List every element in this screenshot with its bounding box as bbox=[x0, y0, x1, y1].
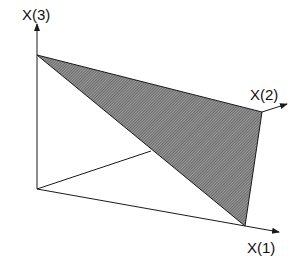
x3-axis-label: X(3) bbox=[22, 6, 50, 23]
x2-axis-line bbox=[37, 151, 151, 189]
x1-axis-label: X(1) bbox=[247, 239, 275, 256]
x2-axis-arrow bbox=[262, 104, 287, 112]
simplex-triangle bbox=[37, 55, 262, 226]
x2-axis-label: X(2) bbox=[250, 86, 278, 103]
simplex-diagram: X(3) X(2) X(1) bbox=[0, 0, 302, 269]
